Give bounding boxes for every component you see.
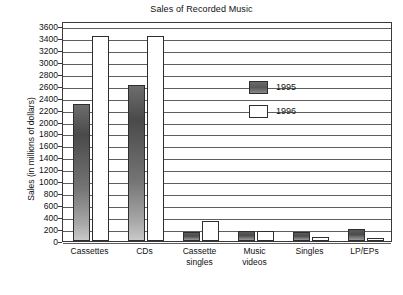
x-tick-label-line: videos (215, 257, 295, 268)
bar-1996-cassettes (92, 36, 109, 241)
legend-swatch-1996-icon (249, 105, 268, 118)
bar-1996-cassette-singles (202, 221, 219, 241)
gridline (63, 183, 391, 184)
page-title: Sales of Recorded Music (0, 4, 403, 14)
y-tick-label: 800 (0, 190, 58, 199)
legend-item-1995: 1995 (249, 81, 345, 96)
legend-swatch-1995-icon (249, 81, 268, 94)
y-tick-label: 400 (0, 214, 58, 223)
x-tick-label-line: LP/EPs (325, 246, 403, 257)
bar-1996-music-videos (257, 231, 274, 241)
y-tick-label: 3200 (0, 47, 58, 56)
gridline (63, 147, 391, 148)
bar-1995-lp-eps (348, 229, 365, 241)
y-tick-label: 2400 (0, 95, 58, 104)
gridline (63, 207, 391, 208)
y-tick-label: 2600 (0, 83, 58, 92)
legend: 1995 1996 (249, 81, 345, 127)
y-tick-label: 1800 (0, 130, 58, 139)
gridline (63, 195, 391, 196)
legend-label-1995: 1995 (276, 82, 296, 93)
legend-label-1996: 1996 (276, 106, 296, 117)
bar-1996-singles (312, 237, 329, 241)
gridline (63, 52, 391, 53)
y-tick-label: 1600 (0, 142, 58, 151)
y-tick-label: 0 (0, 238, 58, 247)
bar-1995-cassette-singles (183, 232, 200, 241)
y-tick-label: 1000 (0, 178, 58, 187)
bar-1996-lp-eps (367, 238, 384, 241)
bar-1995-cds (128, 85, 145, 241)
y-tick-label: 2200 (0, 107, 58, 116)
y-tick-label: 1200 (0, 166, 58, 175)
x-tick-label: LP/EPs (325, 246, 403, 257)
y-tick-label: 2800 (0, 71, 58, 80)
y-tick-label: 3000 (0, 59, 58, 68)
gridline (63, 28, 391, 29)
bar-1995-singles (293, 232, 310, 241)
y-tick-label: 1400 (0, 154, 58, 163)
gridline (63, 231, 391, 232)
bar-1995-cassettes (73, 104, 90, 241)
x-axis-tick-labels: CassettesCDsCassettesinglesMusicvideosSi… (62, 246, 392, 286)
gridline (63, 219, 391, 220)
gridline (63, 159, 391, 160)
y-tick-label: 3400 (0, 35, 58, 44)
gridline (63, 135, 391, 136)
y-tick-label: 600 (0, 202, 58, 211)
y-tick-label: 200 (0, 226, 58, 235)
bar-1996-cds (147, 36, 164, 241)
gridline (63, 171, 391, 172)
gridline (63, 76, 391, 77)
chart-figure: Sales of Recorded Music Sales (in millio… (0, 0, 403, 295)
bar-1995-music-videos (238, 231, 255, 241)
gridline (63, 40, 391, 41)
gridline (63, 64, 391, 65)
gridline (63, 243, 391, 244)
y-tick-label: 3600 (0, 23, 58, 32)
plot-area: 1995 1996 (62, 22, 392, 242)
legend-item-1996: 1996 (249, 105, 345, 120)
y-tick-label: 2000 (0, 119, 58, 128)
